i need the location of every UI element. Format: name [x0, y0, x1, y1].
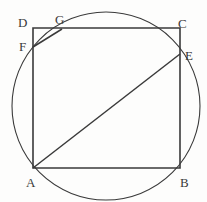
vertex-label-a: A	[26, 176, 35, 189]
geometry-canvas	[0, 0, 207, 202]
vertex-label-f: F	[19, 40, 26, 53]
segment-f-to-g	[33, 29, 62, 47]
vertex-label-d: D	[18, 16, 27, 29]
vertex-label-c: C	[178, 17, 187, 30]
circle-through-a-f-g-e	[12, 12, 200, 200]
geometry-figure: A B C D E F G	[0, 0, 207, 202]
vertex-label-g: G	[55, 13, 64, 26]
segment-a-to-e	[33, 54, 180, 168]
vertex-label-b: B	[180, 176, 189, 189]
square-abcd	[33, 28, 180, 168]
vertex-label-e: E	[185, 49, 193, 62]
